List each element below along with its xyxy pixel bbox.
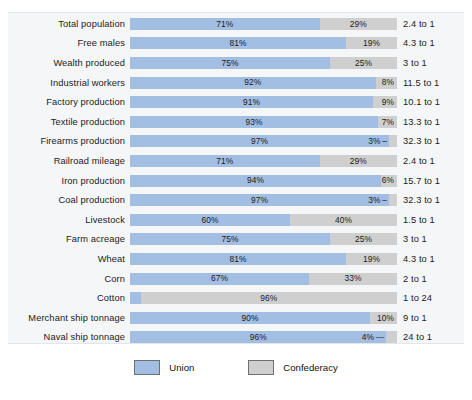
row-ratio-label: 2.4 to 1 xyxy=(397,156,459,166)
bar-segment-confederacy: 8% xyxy=(376,77,397,89)
stacked-bar-track: 71%29% xyxy=(130,18,397,30)
bar-value-union: 91% xyxy=(243,98,260,106)
stacked-bar-track: 71%29% xyxy=(130,155,397,167)
bar-segment-union: 71% xyxy=(130,155,320,167)
row-label: Merchant ship tonnage xyxy=(8,313,130,323)
row-label: Factory production xyxy=(8,97,130,107)
row-label: Iron production xyxy=(8,176,130,186)
bar-segment-confederacy: 29% xyxy=(320,18,397,30)
bar-value-union: 71% xyxy=(216,157,233,165)
bar-value-confederacy: 4% — xyxy=(362,333,385,341)
row-ratio-label: 1 to 24 xyxy=(397,293,459,303)
row-label: Firearms production xyxy=(8,136,130,146)
bar-value-union: 60% xyxy=(202,216,219,224)
stacked-bar-track: 96%4% — xyxy=(130,331,397,343)
bar-value-confederacy: 40% xyxy=(335,216,352,224)
stacked-bar-track: 75%25% xyxy=(130,233,397,245)
bar-value-union: 97% xyxy=(251,137,268,145)
bar-value-confederacy: 29% xyxy=(350,20,367,28)
bar-value-confederacy: 29% xyxy=(350,157,367,165)
bar-value-union: 92% xyxy=(244,78,261,86)
legend-swatch-icon xyxy=(248,360,274,375)
bar-segment-union: 93% xyxy=(130,116,378,128)
legend-item: Union xyxy=(134,360,194,375)
bar-segment-confederacy: 7% xyxy=(378,116,397,128)
bar-segment-union: 92% xyxy=(130,77,376,89)
bar-value-union: 97% xyxy=(251,196,268,204)
bar-segment-confederacy: 19% xyxy=(346,253,397,265)
bar-value-confederacy: 3% – xyxy=(368,196,387,204)
bar-segment-confederacy: 6% xyxy=(381,175,397,187)
bar-value-union: 81% xyxy=(230,255,247,263)
stacked-bar-track: 90%10% xyxy=(130,312,397,324)
bar-row: Industrial workers92%8%11.5 to 1 xyxy=(8,73,464,93)
bar-row: Wheat81%19%4.3 to 1 xyxy=(8,249,464,269)
row-label: Livestock xyxy=(8,215,130,225)
stacked-bar-track: 97%3% – xyxy=(130,135,397,147)
row-ratio-label: 2.4 to 1 xyxy=(397,19,459,29)
bar-row: Cotton– 4%96%1 to 24 xyxy=(8,288,464,308)
bar-value-union: 93% xyxy=(246,118,263,126)
bar-segment-union: 81% xyxy=(130,37,346,49)
row-label: Industrial workers xyxy=(8,78,130,88)
bar-segment-union: 71% xyxy=(130,18,320,30)
stacked-bar-track: 97%3% – xyxy=(130,194,397,206)
bar-value-confederacy: 7% xyxy=(382,118,394,126)
stacked-bar-track: 92%8% xyxy=(130,77,397,89)
bar-segment-union: 97% xyxy=(130,194,389,206)
stacked-bar-track: – 4%96% xyxy=(130,292,397,304)
bar-value-confederacy: 8% xyxy=(382,78,394,86)
row-label: Farm acreage xyxy=(8,234,130,244)
bar-segment-union: 81% xyxy=(130,253,346,265)
bar-segment-union: 75% xyxy=(130,233,330,245)
legend-label: Confederacy xyxy=(283,362,337,373)
bar-row: Free males81%19%4.3 to 1 xyxy=(8,34,464,54)
row-ratio-label: 24 to 1 xyxy=(397,332,459,342)
bar-segment-union: 94% xyxy=(130,175,381,187)
bar-value-confederacy: 25% xyxy=(355,59,372,67)
chart-legend: UnionConfederacy xyxy=(8,360,464,375)
row-label: Wheat xyxy=(8,254,130,264)
stacked-bar-track: 91%9% xyxy=(130,96,397,108)
bar-row: Total population71%29%2.4 to 1 xyxy=(8,14,464,34)
bar-segment-confederacy: 40% xyxy=(290,214,397,226)
bar-value-confederacy: 9% xyxy=(382,98,394,106)
bar-segment-confederacy: 33% xyxy=(309,273,397,285)
stacked-bar-track: 81%19% xyxy=(130,253,397,265)
bar-segment-union: 67% xyxy=(130,273,309,285)
row-ratio-label: 9 to 1 xyxy=(397,313,459,323)
legend-item: Confederacy xyxy=(248,360,337,375)
bar-segment-union: 90% xyxy=(130,312,370,324)
row-label: Free males xyxy=(8,38,130,48)
row-ratio-label: 4.3 to 1 xyxy=(397,38,459,48)
bar-value-confederacy: 6% xyxy=(382,176,394,184)
bar-segment-confederacy: 96% xyxy=(141,292,397,304)
bar-value-union: 75% xyxy=(222,235,239,243)
stacked-bar-track: 94%6% xyxy=(130,175,397,187)
bar-value-union: 71% xyxy=(216,20,233,28)
chart-figure: Total population71%29%2.4 to 1Free males… xyxy=(0,0,472,400)
row-ratio-label: 11.5 to 1 xyxy=(397,78,459,88)
bar-segment-confederacy: 10% xyxy=(370,312,397,324)
bar-value-confederacy: 25% xyxy=(355,235,372,243)
row-ratio-label: 13.3 to 1 xyxy=(397,117,459,127)
bar-value-union: 90% xyxy=(242,314,259,322)
row-ratio-label: 32.3 to 1 xyxy=(397,195,459,205)
row-ratio-label: 32.3 to 1 xyxy=(397,136,459,146)
bar-segment-confederacy: 25% xyxy=(330,233,397,245)
bar-row: Textile production93%7%13.3 to 1 xyxy=(8,112,464,132)
stacked-bar-track: 67%33% xyxy=(130,273,397,285)
bar-segment-confederacy: 9% xyxy=(373,96,397,108)
stacked-bar-track: 81%19% xyxy=(130,37,397,49)
bar-value-union: 94% xyxy=(247,176,264,184)
bar-row: Wealth produced75%25%3 to 1 xyxy=(8,53,464,73)
bar-value-union: 81% xyxy=(230,39,247,47)
row-ratio-label: 4.3 to 1 xyxy=(397,254,459,264)
legend-swatch-icon xyxy=(134,360,160,375)
bar-value-union: 75% xyxy=(222,59,239,67)
bar-value-confederacy: 19% xyxy=(363,39,380,47)
row-label: Railroad mileage xyxy=(8,156,130,166)
bar-row: Railroad mileage71%29%2.4 to 1 xyxy=(8,151,464,171)
row-label: Total population xyxy=(8,19,130,29)
bar-row: Firearms production97%3% –32.3 to 1 xyxy=(8,132,464,152)
